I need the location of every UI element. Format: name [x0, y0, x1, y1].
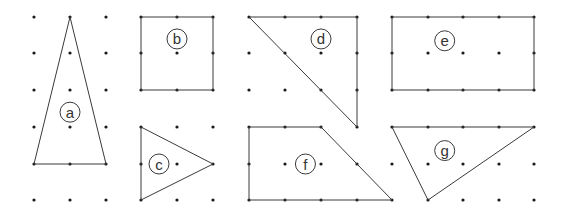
grid-dot — [68, 125, 71, 128]
grid-dot — [175, 125, 178, 128]
grid-dot — [532, 198, 535, 201]
grid-dot — [175, 51, 178, 54]
grid-dot — [283, 162, 286, 165]
grid-dot — [104, 125, 107, 128]
grid-dot — [461, 198, 464, 201]
grid-dot — [319, 51, 322, 54]
dot-grid-diagram: abcdefg — [0, 0, 562, 213]
label-text: c — [155, 156, 163, 173]
grid-dot — [32, 88, 35, 91]
label-text: g — [441, 142, 449, 159]
shape-label-d: d — [311, 29, 331, 49]
shape-label-f: f — [295, 154, 315, 174]
shape-label-a: a — [60, 102, 80, 122]
grid-dot — [104, 51, 107, 54]
shapes-layer — [34, 17, 534, 200]
grid-dot — [32, 198, 35, 201]
grid-dot — [32, 15, 35, 18]
grid-dot — [68, 88, 71, 91]
grid-dot — [426, 51, 429, 54]
grid-dot — [32, 125, 35, 128]
grid-dot — [390, 162, 393, 165]
grid-dot — [32, 51, 35, 54]
grid-dot — [247, 88, 250, 91]
grid-dot — [461, 162, 464, 165]
grid-dot — [497, 162, 500, 165]
grid-dot — [68, 51, 71, 54]
grid-dot — [247, 51, 250, 54]
grid-dot — [211, 125, 214, 128]
grid-dot — [68, 198, 71, 201]
label-text: d — [317, 30, 325, 47]
grid-dot — [319, 162, 322, 165]
shape-label-b: b — [167, 29, 187, 49]
grid-dot — [175, 162, 178, 165]
grid-dot — [283, 88, 286, 91]
grid-dot — [104, 198, 107, 201]
grid-dot — [532, 162, 535, 165]
label-text: a — [66, 104, 75, 121]
label-text: e — [441, 32, 449, 49]
grid-dot — [426, 162, 429, 165]
shape-d — [249, 17, 357, 127]
grid-dot — [175, 198, 178, 201]
shape-label-c: c — [149, 154, 169, 174]
shape-label-g: g — [435, 141, 455, 161]
grid-dot — [104, 88, 107, 91]
labels-layer: abcdefg — [60, 29, 455, 174]
grid-dot — [104, 15, 107, 18]
label-text: b — [173, 30, 181, 47]
shape-label-e: e — [435, 31, 455, 51]
grid-dot — [461, 51, 464, 54]
grid-dot — [497, 198, 500, 201]
grid-dot — [497, 51, 500, 54]
grid-dot — [211, 198, 214, 201]
grid-dots — [32, 15, 535, 201]
